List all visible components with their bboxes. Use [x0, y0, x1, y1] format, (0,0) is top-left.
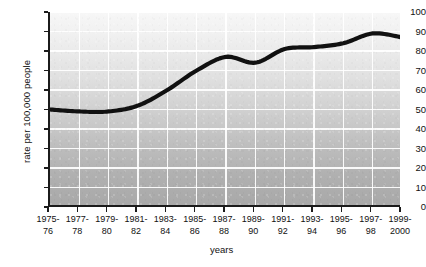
y-axis-title: rate per 100,000 people	[21, 32, 32, 192]
x-tick-mark-0	[47, 207, 49, 212]
x-tick-mark-2	[106, 207, 108, 212]
x-tick-mark-9	[311, 207, 313, 212]
x-tick-mark-10	[341, 207, 343, 212]
plot-area	[48, 12, 400, 207]
line-chart: rate per 100,000 people 0102030405060708…	[0, 0, 426, 267]
x-tick-mark-5	[194, 207, 196, 212]
x-tick-mark-6	[223, 207, 225, 212]
data-series-line	[50, 12, 400, 207]
x-tick-label-line: 1999-	[377, 214, 423, 226]
x-tick-label-1999-2000: 1999-2000	[377, 214, 423, 237]
x-tick-mark-7	[253, 207, 255, 212]
x-tick-mark-1	[77, 207, 79, 212]
x-tick-mark-12	[399, 207, 401, 212]
x-tick-label-line: 2000	[377, 226, 423, 238]
x-tick-mark-3	[135, 207, 137, 212]
x-tick-mark-11	[370, 207, 372, 212]
x-tick-mark-8	[282, 207, 284, 212]
x-axis-title: years	[210, 244, 233, 255]
x-tick-mark-4	[165, 207, 167, 212]
